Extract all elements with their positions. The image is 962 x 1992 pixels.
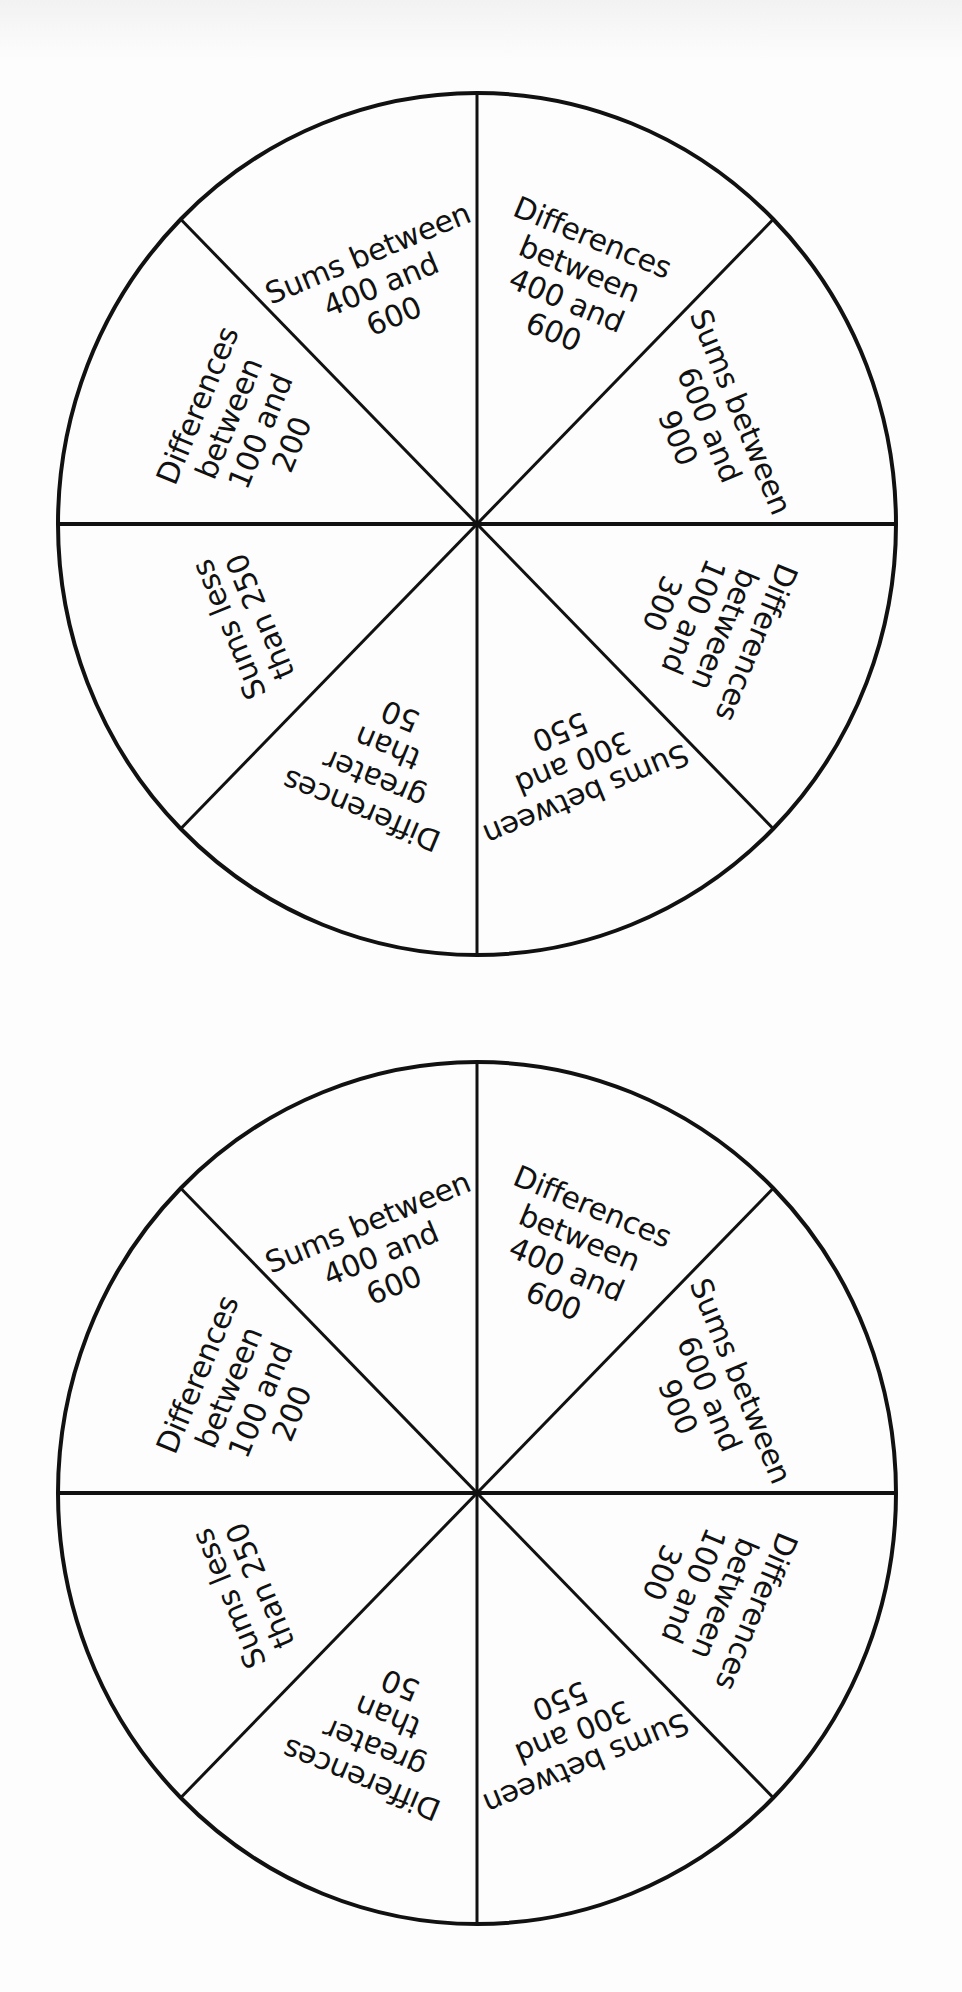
wheel-outline: [0, 1043, 962, 1943]
page-top-shade: [0, 0, 962, 60]
spinner-wheel-top: Differences between 400 and 600 Sums bet…: [0, 74, 962, 974]
spinner-wheel-bottom: Differences between 400 and 600 Sums bet…: [0, 1043, 962, 1943]
wheel-outline: [0, 74, 962, 974]
